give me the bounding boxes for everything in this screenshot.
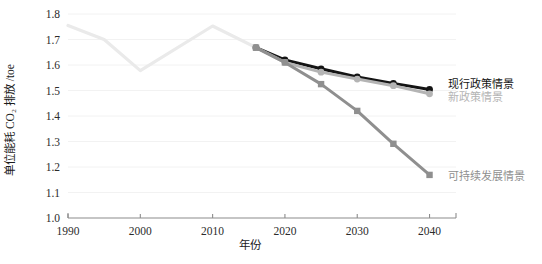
x-tick-label: 2030 bbox=[346, 225, 369, 237]
data-point-marker bbox=[426, 90, 433, 97]
series-line bbox=[256, 48, 430, 94]
series-labels: 现行政策情景新政策情景可持续发展情景 bbox=[448, 77, 525, 182]
x-tick-label: 2010 bbox=[201, 225, 224, 237]
gridlines bbox=[68, 14, 456, 193]
series-line bbox=[256, 48, 430, 175]
y-tick-label: 1.4 bbox=[46, 110, 61, 122]
y-tick-label: 1.7 bbox=[46, 34, 61, 46]
data-point-marker bbox=[318, 69, 325, 76]
series-历史 bbox=[68, 25, 256, 70]
series-现行政策情景 bbox=[253, 44, 433, 93]
y-tick-label: 1.6 bbox=[46, 59, 61, 71]
y-axis-tick-labels: 1.01.11.21.31.41.51.61.71.8 bbox=[46, 8, 61, 224]
x-tick-label: 2020 bbox=[273, 225, 296, 237]
series-label-现行政策情景: 现行政策情景 bbox=[448, 77, 514, 90]
data-point-marker bbox=[426, 172, 432, 178]
series-line bbox=[256, 48, 430, 90]
y-tick-label: 1.1 bbox=[46, 187, 61, 199]
series-label-新政策情景: 新政策情景 bbox=[448, 90, 503, 103]
chart-container: 1.01.11.21.31.41.51.61.71.8 199020002010… bbox=[0, 0, 542, 264]
y-tick-label: 1.0 bbox=[46, 212, 61, 224]
series-label-可持续发展情景: 可持续发展情景 bbox=[448, 169, 525, 182]
data-point-marker bbox=[318, 81, 324, 87]
data-point-marker bbox=[354, 76, 361, 83]
y-axis-title: 单位能耗 CO₂ 排放 /toe bbox=[3, 64, 16, 176]
x-axis-title: 年份 bbox=[239, 238, 262, 251]
y-tick-label: 1.3 bbox=[46, 136, 61, 148]
x-tick-label: 1990 bbox=[57, 225, 80, 237]
data-point-marker bbox=[354, 108, 360, 114]
y-tick-label: 1.2 bbox=[46, 161, 61, 173]
series-新政策情景 bbox=[253, 44, 433, 97]
y-tick-label: 1.8 bbox=[46, 8, 61, 20]
y-tick-label: 1.5 bbox=[46, 85, 61, 97]
data-series-group bbox=[68, 25, 433, 178]
x-axis-tick-labels: 199020002010202020302040 bbox=[57, 225, 442, 237]
x-tick-label: 2040 bbox=[418, 225, 441, 237]
x-axis bbox=[68, 213, 456, 218]
series-line bbox=[68, 25, 256, 70]
data-point-marker bbox=[282, 59, 288, 65]
line-chart: 1.01.11.21.31.41.51.61.71.8 199020002010… bbox=[0, 0, 542, 264]
data-point-marker bbox=[390, 82, 397, 89]
data-point-marker bbox=[253, 44, 259, 50]
x-tick-label: 2000 bbox=[129, 225, 152, 237]
data-point-marker bbox=[390, 141, 396, 147]
